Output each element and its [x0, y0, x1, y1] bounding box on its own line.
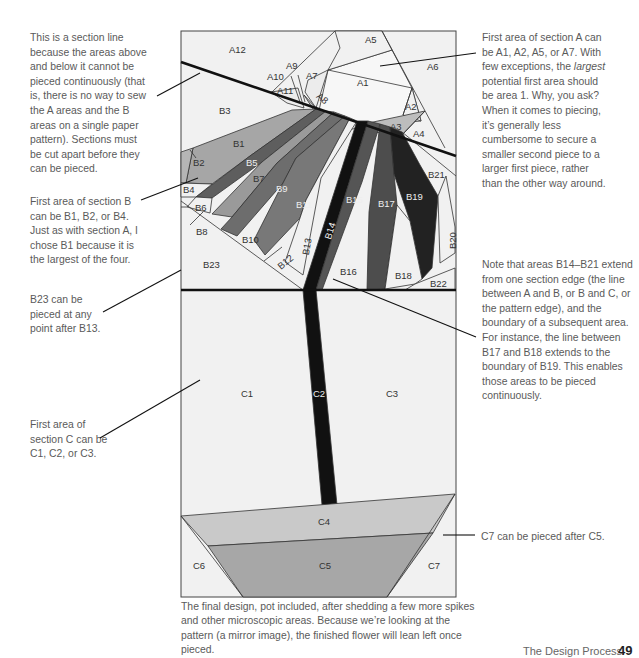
label-b2: B2: [193, 157, 205, 168]
label-b10: B10: [242, 234, 259, 245]
label-b7: B7: [253, 173, 265, 184]
label-a2: A2: [405, 101, 417, 112]
label-b20: B20: [447, 232, 458, 249]
label-b1: B1: [233, 138, 245, 149]
label-b21: B21: [428, 169, 445, 180]
label-b15: B15: [346, 194, 363, 205]
label-b16: B16: [340, 266, 357, 277]
label-a4: A4: [413, 128, 425, 139]
label-c3: C3: [386, 388, 398, 399]
running-footer-title: The Design Process: [523, 645, 622, 657]
label-a5: A5: [365, 34, 377, 45]
label-a11: A11: [277, 85, 293, 96]
label-b9: B9: [276, 183, 288, 194]
label-b19: B19: [406, 191, 423, 202]
label-b8: B8: [196, 226, 208, 237]
label-b3: B3: [219, 105, 231, 116]
label-c1: C1: [241, 388, 253, 399]
label-b4: B4: [183, 184, 195, 195]
label-a10: A10: [267, 71, 284, 82]
label-b11: B11: [296, 199, 312, 210]
label-a3: A3: [390, 121, 402, 132]
label-a1: A1: [357, 77, 369, 88]
label-a6: A6: [427, 61, 439, 72]
label-b22: B22: [430, 278, 447, 289]
label-b5: B5: [246, 157, 258, 168]
page-number: 49: [618, 643, 632, 658]
label-c5: C5: [319, 560, 331, 571]
label-c6: C6: [193, 560, 205, 571]
label-a7: A7: [306, 70, 318, 81]
label-b17: B17: [378, 198, 395, 209]
label-c4: C4: [318, 516, 330, 527]
label-b18: B18: [395, 270, 412, 281]
label-b23: B23: [203, 259, 220, 270]
leader-b23: [103, 270, 181, 312]
label-a9: A9: [286, 60, 298, 71]
label-c7: C7: [428, 560, 440, 571]
label-c2: C2: [313, 388, 325, 399]
figure-caption: The final design, pot included, after sh…: [181, 600, 481, 658]
label-a12: A12: [229, 44, 246, 55]
label-b6: B6: [195, 202, 207, 213]
